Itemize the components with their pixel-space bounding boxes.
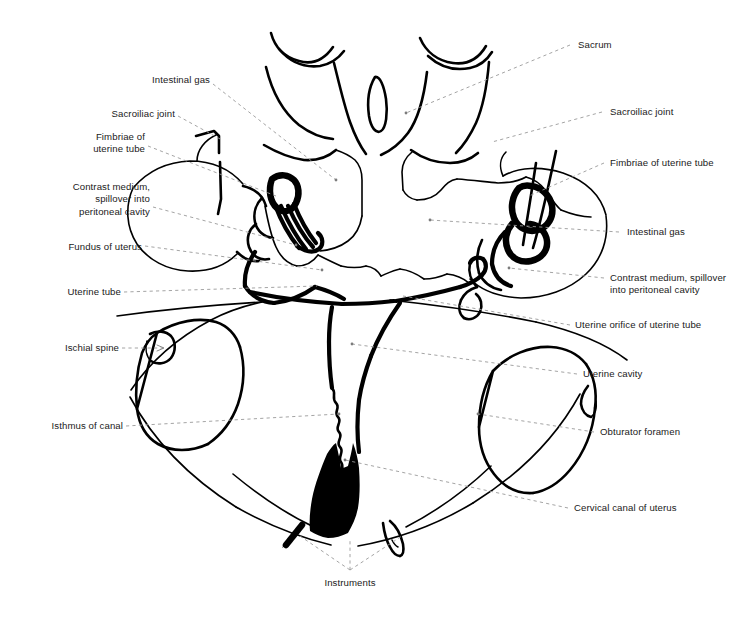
label-fimbriae-right: Fimbriae of uterine tube (610, 157, 738, 169)
label-fundus-of-uterus: Fundus of uterus (20, 241, 142, 253)
label-instruments: Instruments (300, 577, 400, 589)
label-fimbriae-left: Fimbriae of uterine tube (20, 131, 145, 156)
label-uterine-cavity: Uterine cavity (583, 368, 703, 380)
instrument-contrast-mass (310, 443, 360, 538)
pelvic-brim-lines (117, 300, 627, 546)
label-contrast-medium-left: Contrast medium, spillover into peritone… (20, 181, 150, 218)
label-uterine-tube: Uterine tube (20, 286, 121, 298)
label-sacroiliac-joint-right: Sacroiliac joint (610, 106, 735, 118)
label-cervical-canal: Cervical canal of uterus (574, 502, 734, 514)
label-ischial-spine: Ischial spine (20, 342, 119, 354)
label-uterine-orifice: Uterine orifice of uterine tube (575, 319, 740, 331)
label-obturator-foramen: Obturator foramen (600, 426, 725, 438)
label-sacroiliac-joint-left: Sacroiliac joint (20, 108, 175, 120)
label-isthmus-of-canal: Isthmus of canal (20, 420, 123, 432)
uterine-tubes (245, 252, 486, 319)
anatomical-figure: Intestinal gas Sacroiliac joint Fimbriae… (0, 0, 740, 617)
fimbriae-left-contrast (248, 175, 322, 259)
label-intestinal-gas-left: Intestinal gas (20, 74, 210, 86)
label-contrast-medium-right: Contrast medium, spillover into peritone… (610, 272, 738, 297)
label-intestinal-gas-right: Intestinal gas (627, 226, 737, 238)
diagram-svg (0, 0, 740, 617)
sacrum-outline (264, 33, 492, 163)
iliac-bone-outlines (128, 135, 607, 298)
fimbriae-right-contrast (477, 186, 552, 290)
label-sacrum: Sacrum (578, 39, 728, 51)
